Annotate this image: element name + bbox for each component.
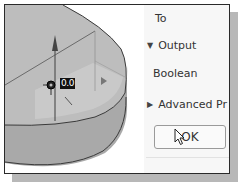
cylinder-model <box>5 5 145 173</box>
application-window: 0.0 To ▼Output Boolean ▶Advanced Pr OK <box>4 4 230 174</box>
operation-value[interactable]: Boolean <box>153 67 198 80</box>
triangle-down-icon: ▼ <box>147 41 153 50</box>
properties-panel: To ▼Output Boolean ▶Advanced Pr OK <box>144 5 230 173</box>
mouse-cursor-icon <box>174 128 186 146</box>
panel-divider <box>146 157 230 158</box>
advanced-section-label: Advanced Pr <box>158 98 227 111</box>
triangle-right-icon: ▶ <box>147 100 153 109</box>
to-label: To <box>155 12 167 25</box>
advanced-section-header[interactable]: ▶Advanced Pr <box>147 98 227 111</box>
output-section-header[interactable]: ▼Output <box>147 39 196 52</box>
3d-viewport[interactable]: 0.0 <box>5 5 145 173</box>
dimension-value-input[interactable]: 0.0 <box>60 78 75 89</box>
output-section-label: Output <box>158 39 196 52</box>
ok-button[interactable]: OK <box>154 125 226 149</box>
